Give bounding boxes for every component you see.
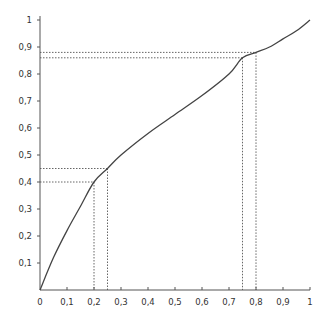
ticks: 00,10,20,30,40,50,60,70,80,910,10,20,30,…	[18, 15, 312, 307]
x-tick-label: 0	[37, 297, 42, 307]
x-tick-label: 0,4	[141, 297, 155, 307]
x-tick-label: 0,5	[168, 297, 182, 307]
y-tick-label: 0,1	[18, 258, 32, 268]
x-tick-label: 0,8	[249, 297, 263, 307]
x-tick-label: 0,1	[60, 297, 74, 307]
chart: 00,10,20,30,40,50,60,70,80,910,10,20,30,…	[0, 0, 327, 318]
y-tick-label: 0,2	[18, 231, 32, 241]
series-curve	[40, 20, 310, 290]
y-tick-label: 0,9	[18, 42, 32, 52]
y-tick-label: 0,8	[18, 69, 32, 79]
x-tick-label: 0,7	[222, 297, 236, 307]
x-tick-label: 0,9	[276, 297, 290, 307]
y-tick-label: 0,5	[18, 150, 32, 160]
y-tick-label: 0,3	[18, 204, 32, 214]
x-tick-label: 0,3	[114, 297, 128, 307]
x-tick-label: 0,6	[195, 297, 209, 307]
x-tick-label: 0,2	[87, 297, 101, 307]
guide-lines	[40, 52, 256, 290]
y-tick-label: 0,4	[18, 177, 32, 187]
y-tick-label: 0,6	[18, 123, 32, 133]
x-tick-label: 1	[307, 297, 312, 307]
y-tick-label: 1	[27, 15, 32, 25]
y-tick-label: 0,7	[18, 96, 32, 106]
